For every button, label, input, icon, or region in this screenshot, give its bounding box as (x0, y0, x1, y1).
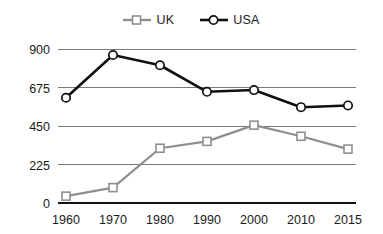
data-point-uk-2015[interactable] (344, 145, 352, 153)
y-tick-label-675: 675 (29, 82, 50, 96)
line-chart: UK USA 900 675 450 225 0 1960 1970 (0, 0, 383, 234)
data-point-usa-1960[interactable] (62, 94, 70, 102)
data-point-uk-2000[interactable] (250, 121, 258, 129)
x-tick-label-1970: 1970 (99, 213, 127, 227)
data-point-usa-2015[interactable] (344, 101, 352, 109)
data-point-uk-1980[interactable] (156, 144, 164, 152)
data-point-uk-1960[interactable] (62, 192, 70, 200)
series-line-usa (66, 55, 348, 107)
x-tick-label-1990: 1990 (193, 213, 221, 227)
data-point-usa-2000[interactable] (250, 86, 258, 94)
data-point-usa-1990[interactable] (203, 88, 211, 96)
y-tick-label-225: 225 (29, 159, 50, 173)
x-tick-label-2010: 2010 (287, 213, 315, 227)
y-tick-label-450: 450 (29, 120, 50, 134)
data-point-uk-2010[interactable] (297, 132, 305, 140)
data-point-uk-1990[interactable] (203, 137, 211, 145)
data-point-usa-2010[interactable] (297, 103, 305, 111)
data-point-usa-1980[interactable] (156, 61, 164, 69)
x-tick-label-2015: 2015 (334, 213, 362, 227)
plot-area: 900 675 450 225 0 1960 1970 1980 1990 20… (0, 0, 383, 234)
data-point-uk-1970[interactable] (109, 184, 117, 192)
y-axis-tick-labels: 900 675 450 225 0 (29, 43, 50, 211)
x-axis-tick-labels: 1960 1970 1980 1990 2000 2010 2015 (52, 213, 362, 227)
line-path-usa (66, 55, 348, 107)
data-point-usa-1970[interactable] (109, 51, 117, 59)
y-tick-label-0: 0 (43, 197, 50, 211)
x-tick-label-1960: 1960 (52, 213, 80, 227)
y-tick-label-900: 900 (29, 43, 50, 57)
x-tick-label-2000: 2000 (240, 213, 268, 227)
x-tick-label-1980: 1980 (146, 213, 174, 227)
series-markers-usa (62, 51, 352, 112)
